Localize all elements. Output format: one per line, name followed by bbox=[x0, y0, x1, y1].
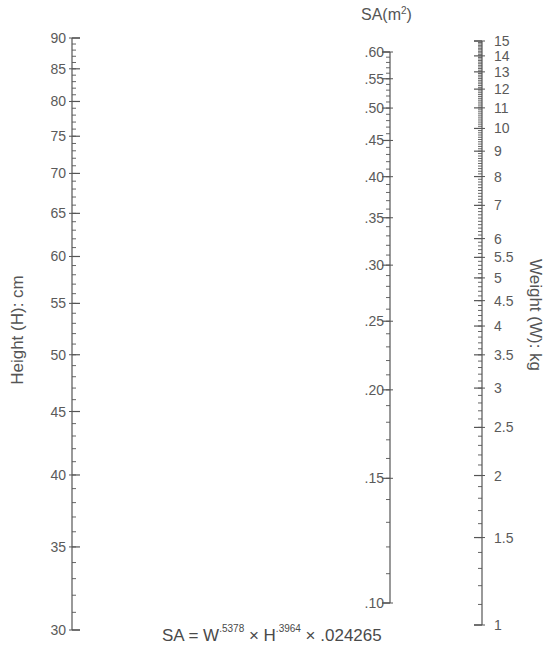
tick-label: 3.5 bbox=[494, 347, 514, 363]
surface_area-axis: .10.15.20.25.30.35.40.45.50.55.60 bbox=[365, 44, 393, 611]
tick-label: 40 bbox=[50, 467, 66, 483]
tick-label: 2 bbox=[494, 468, 502, 484]
tick-label: .10 bbox=[365, 595, 385, 611]
tick-label: 1 bbox=[494, 617, 502, 633]
formula-suffix: × .024265 bbox=[301, 626, 382, 645]
tick-label: 60 bbox=[50, 248, 66, 264]
tick-label: 85 bbox=[50, 61, 66, 77]
tick-label: 12 bbox=[494, 81, 510, 97]
tick-label: 5 bbox=[494, 270, 502, 286]
tick-label: 1.5 bbox=[494, 530, 514, 546]
tick-label: .30 bbox=[365, 257, 385, 273]
tick-label: 10 bbox=[494, 120, 510, 136]
tick-label: 80 bbox=[50, 93, 66, 109]
tick-label: 4 bbox=[494, 318, 502, 334]
tick-label: 6 bbox=[494, 231, 502, 247]
tick-label: .40 bbox=[365, 169, 385, 185]
tick-label: 50 bbox=[50, 347, 66, 363]
tick-label: 7 bbox=[494, 197, 502, 213]
formula-h-exponent: .3964 bbox=[276, 623, 301, 634]
weight-axis: 11.522.533.544.555.56789101112131415 bbox=[474, 33, 514, 633]
tick-label: 75 bbox=[50, 128, 66, 144]
tick-label: 45 bbox=[50, 404, 66, 420]
tick-label: 2.5 bbox=[494, 419, 514, 435]
tick-label: 90 bbox=[50, 30, 66, 46]
formula: SA = W.5378 × H.3964 × .024265 bbox=[162, 625, 382, 646]
tick-label: 11 bbox=[494, 100, 509, 116]
tick-label: .55 bbox=[365, 71, 385, 87]
formula-mid: × H bbox=[244, 626, 276, 645]
tick-label: 4.5 bbox=[494, 293, 514, 309]
tick-label: 15 bbox=[494, 33, 510, 49]
tick-label: 3 bbox=[494, 380, 502, 396]
height-axis: 30354045505560657075808590 bbox=[50, 30, 80, 638]
formula-w-exponent: .5378 bbox=[219, 623, 244, 634]
formula-prefix: SA = W bbox=[162, 626, 219, 645]
tick-label: 13 bbox=[494, 64, 510, 80]
tick-label: .15 bbox=[365, 470, 385, 486]
tick-label: .25 bbox=[365, 313, 385, 329]
tick-label: .45 bbox=[365, 132, 385, 148]
tick-label: 8 bbox=[494, 169, 502, 185]
tick-label: .60 bbox=[365, 44, 385, 60]
tick-label: 35 bbox=[50, 539, 66, 555]
tick-label: 55 bbox=[50, 295, 66, 311]
tick-label: .50 bbox=[365, 100, 385, 116]
tick-label: 9 bbox=[494, 143, 502, 159]
tick-label: .20 bbox=[365, 382, 385, 398]
tick-label: .35 bbox=[365, 210, 385, 226]
tick-label: 14 bbox=[494, 48, 510, 64]
tick-label: 65 bbox=[50, 205, 66, 221]
tick-label: 5.5 bbox=[494, 249, 514, 265]
tick-label: 30 bbox=[50, 622, 66, 638]
tick-label: 70 bbox=[50, 165, 66, 181]
